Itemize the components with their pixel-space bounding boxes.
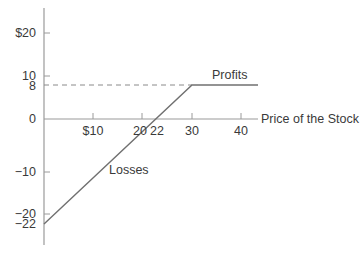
x-ticks bbox=[93, 113, 241, 119]
y-ticks bbox=[44, 33, 50, 214]
losses-label: Losses bbox=[109, 163, 149, 177]
payoff-line bbox=[44, 85, 258, 224]
y-label-8: 8 bbox=[29, 79, 36, 93]
y-label-20: $20 bbox=[15, 26, 36, 40]
y-label-neg22: −22 bbox=[15, 217, 36, 231]
x-label-40: 40 bbox=[234, 124, 248, 138]
x-label-22: 22 bbox=[150, 124, 164, 138]
x-axis-title: Price of the Stock bbox=[261, 112, 360, 126]
profits-label: Profits bbox=[212, 68, 247, 82]
y-label-neg10: −10 bbox=[15, 165, 36, 179]
x-label-20: 20 bbox=[133, 124, 147, 138]
x-label-10: $10 bbox=[83, 124, 104, 138]
payoff-chart: $20 10 8 0 −10 −20 −22 $10 20 22 30 40 P… bbox=[0, 0, 363, 258]
x-label-30: 30 bbox=[185, 124, 199, 138]
y-label-0: 0 bbox=[29, 112, 36, 126]
